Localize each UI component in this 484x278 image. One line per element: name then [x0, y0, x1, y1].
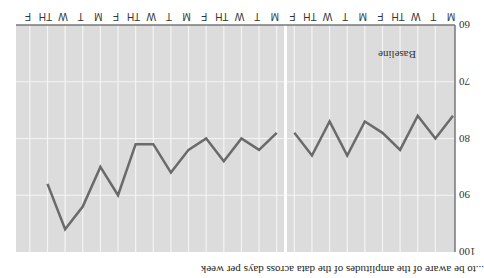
x-tick-label: TH [303, 11, 316, 22]
line-chart: 60708090100MTWTHFMTWTHFMTWTHFMTWTHFMTWTH… [0, 0, 484, 278]
x-tick-label: F [201, 11, 207, 22]
x-tick-label: TH [215, 11, 228, 22]
x-tick-label: T [430, 11, 436, 22]
chart-caption: ...to be aware of the amplitudes of the … [0, 264, 484, 276]
x-tick-label: M [94, 11, 102, 22]
x-tick-label: TH [127, 11, 140, 22]
x-tick-label: T [166, 11, 172, 22]
x-tick-label: W [410, 11, 420, 22]
x-tick-label: F [113, 11, 119, 22]
x-tick-label: W [146, 11, 156, 22]
chart-stage: ...to be aware of the amplitudes of the … [0, 0, 484, 278]
x-tick-label: T [78, 11, 84, 22]
x-tick-label: F [377, 11, 383, 22]
x-tick-label: T [342, 11, 348, 22]
x-tick-label: F [289, 11, 295, 22]
y-tick-label: 90 [459, 189, 471, 201]
x-tick-label: M [359, 11, 367, 22]
x-tick-label: T [254, 11, 260, 22]
phase-label: Baseline [378, 49, 416, 61]
x-tick-label: F [25, 11, 31, 22]
x-tick-label: TH [391, 11, 404, 22]
x-tick-label: W [322, 11, 332, 22]
y-tick-label: 100 [459, 246, 476, 258]
x-tick-label: W [234, 11, 244, 22]
x-tick-label: M [447, 11, 455, 22]
y-tick-label: 80 [459, 133, 471, 145]
x-tick-label: TH [39, 11, 52, 22]
y-tick-label: 70 [459, 76, 471, 88]
x-tick-label: M [182, 11, 190, 22]
x-tick-label: W [58, 11, 68, 22]
x-tick-label: M [271, 11, 279, 22]
y-tick-label: 60 [459, 19, 471, 31]
